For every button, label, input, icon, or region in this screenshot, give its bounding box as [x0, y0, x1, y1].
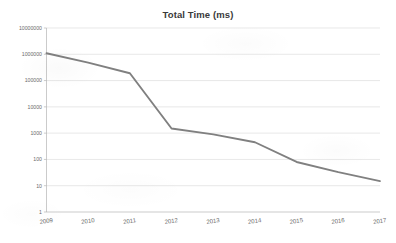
chart-container: Total Time (ms) 110100100010000100000100… [0, 0, 396, 243]
x-tick-label: 2015 [289, 217, 304, 225]
x-tick-label: 2016 [331, 217, 346, 225]
axis-tick-marks [44, 28, 47, 212]
x-tick-label: 2017 [373, 217, 388, 225]
x-axis-tick-labels: 200920102011201220132014201520162017 [39, 217, 387, 225]
y-tick-label: 1 [39, 209, 42, 215]
y-tick-label: 10000000 [19, 25, 42, 31]
gridlines [47, 28, 381, 186]
y-tick-label: 10 [36, 183, 42, 189]
x-tick-label: 2010 [81, 217, 96, 225]
y-tick-label: 1000000 [22, 51, 42, 57]
y-tick-label: 100000 [25, 77, 42, 83]
x-tick-label: 2011 [123, 217, 137, 225]
x-tick-label: 2009 [39, 217, 54, 225]
y-tick-label: 1000 [30, 130, 42, 136]
x-tick-label: 2012 [164, 217, 179, 225]
y-tick-label: 100 [33, 156, 42, 162]
data-series-line [47, 53, 381, 181]
chart-plot: 110100100010000100000100000010000000 200… [0, 0, 396, 243]
y-tick-label: 10000 [28, 104, 43, 110]
y-axis-tick-labels: 110100100010000100000100000010000000 [19, 25, 42, 215]
x-tick-label: 2013 [206, 217, 221, 225]
x-tick-label: 2014 [248, 217, 263, 225]
